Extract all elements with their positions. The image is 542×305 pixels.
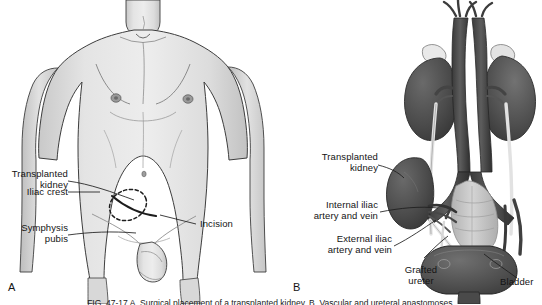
label-symphysis-pubis: Symphysis pubis: [0, 223, 68, 244]
incision-line-a: [112, 196, 156, 216]
panel-b-anatomy: [378, 0, 536, 304]
panel-letter-a: A: [8, 281, 15, 293]
label-internal-iliac-artery-and-vein: Internal iliac artery and vein: [296, 200, 378, 221]
figure-caption: FIG. 47-17 A, Surgical placement of a tr…: [0, 298, 542, 305]
label-grafted-ureter: Grafted ureter: [398, 265, 444, 286]
label-bladder: Bladder: [500, 277, 542, 288]
label-incision: Incision: [200, 219, 260, 230]
label-external-iliac-artery-and-vein: External iliac artery and vein: [308, 234, 392, 255]
panel-letter-b: B: [293, 281, 300, 293]
panel-a-torso: [20, 0, 266, 304]
label-iliac-crest: Iliac crest: [0, 187, 68, 198]
label-transplanted-kidney-b: Transplanted kidney: [300, 152, 378, 173]
